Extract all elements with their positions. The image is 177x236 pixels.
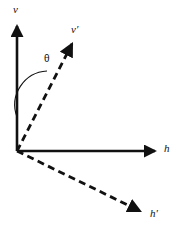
angle-arc-theta (15, 71, 47, 117)
axis-label-h: h (164, 143, 170, 154)
axis-h-prime-line (17, 151, 140, 211)
axes-canvas (0, 0, 177, 236)
angle-label-theta: θ (44, 54, 50, 64)
vector-diagram: v v′ θ h h′ (0, 0, 177, 236)
axis-label-h-prime: h′ (150, 208, 158, 219)
axis-label-v-prime: v′ (71, 24, 78, 35)
axis-label-v: v (13, 4, 18, 15)
